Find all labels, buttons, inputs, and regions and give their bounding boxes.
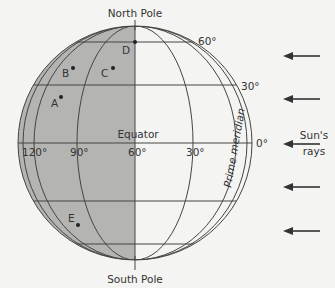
suns-rays-arrows xyxy=(283,52,320,235)
lon-30-label: 30° xyxy=(186,146,205,158)
lat-60-label: 60° xyxy=(198,35,217,47)
svg-text:A: A xyxy=(51,97,59,109)
suns-rays-label-1: Sun's xyxy=(300,129,328,141)
svg-text:D: D xyxy=(122,44,130,56)
south-pole-label: South Pole xyxy=(107,273,163,285)
prime-meridian-label: Prime meridian xyxy=(221,107,247,188)
suns-rays-label-2: rays xyxy=(303,145,325,157)
lon-90-label: 90° xyxy=(70,146,89,158)
lon-60-label: 60° xyxy=(128,146,147,158)
lat-30-label: 30° xyxy=(241,80,260,92)
svg-text:B: B xyxy=(62,67,69,79)
lat-0-label: 0° xyxy=(256,137,268,149)
svg-text:E: E xyxy=(68,212,75,224)
equator-label: Equator xyxy=(117,128,159,140)
globe-diagram: North Pole South Pole Equator 60° 30° 0°… xyxy=(0,0,335,288)
north-pole-label: North Pole xyxy=(108,7,162,19)
lon-120-label: 120° xyxy=(22,146,47,158)
svg-text:C: C xyxy=(101,67,108,79)
